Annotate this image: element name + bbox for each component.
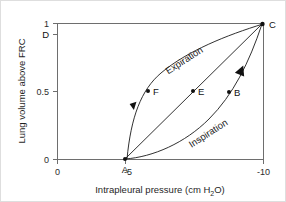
y-tick-label-0point5: 0.5 [36,87,49,97]
plot-area-frame [58,24,264,160]
pressure-volume-chart: 1 0.5 0 D 0 -5 -10 Lung volume above FRC… [1,1,286,202]
marker-point-C [260,22,264,26]
x-tick-label-minus10: -10 [257,167,270,177]
marker-point-F [146,89,150,93]
annotation-label-F: F [153,86,159,97]
marker-point-A [123,157,127,161]
figure-frame: 1 0.5 0 D 0 -5 -10 Lung volume above FRC… [0,0,286,202]
x-axis-title: Intrapleural pressure (cm H2O) [95,184,225,197]
x-tick-label-0: 0 [55,167,60,177]
annotation-label-C: C [269,19,276,30]
x-axis-title-tail: O) [214,184,225,195]
x-axis-ticks [58,160,264,165]
annotation-label-D: D [42,29,49,40]
series-label-expiration: Expiration [163,44,204,76]
annotation-label-B: B [234,87,240,98]
inspiration-arrowhead-icon [235,64,248,77]
x-axis-title-main: Intrapleural pressure (cm H [95,184,210,195]
annotation-label-E: E [198,86,204,97]
y-tick-label-0: 0 [44,155,49,165]
y-tick-label-1: 1 [44,19,49,29]
y-axis-title: Lung volume above FRC [16,38,27,143]
marker-point-B [227,90,231,94]
annotation-label-A: A [122,164,129,175]
y-axis-ticks [53,24,58,160]
marker-point-E [191,89,195,93]
